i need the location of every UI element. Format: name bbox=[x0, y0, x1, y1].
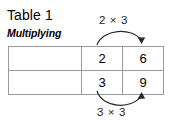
table-container: Servings 2 6 Cups 3 9 bbox=[8, 46, 160, 93]
multiplication-table: Servings 2 6 Cups 3 9 bbox=[8, 46, 164, 95]
cell-servings-2: 6 bbox=[123, 47, 164, 71]
figure-subtitle: Multiplying bbox=[7, 27, 61, 39]
figure-table-1: Table 1 Multiplying Servings 2 6 Cups 3 … bbox=[0, 0, 171, 127]
table-row: Servings 2 6 bbox=[9, 47, 164, 71]
cell-cups-2: 9 bbox=[123, 71, 164, 95]
row-header-servings: Servings bbox=[9, 47, 82, 71]
cell-cups-1: 3 bbox=[82, 71, 123, 95]
cell-servings-1: 2 bbox=[82, 47, 123, 71]
curved-arrow-right-icon bbox=[92, 26, 148, 48]
figure-title: Table 1 bbox=[7, 7, 53, 23]
annotation-top-label: 2 × 3 bbox=[99, 14, 128, 26]
table-row: Cups 3 9 bbox=[9, 71, 164, 95]
row-header-cups: Cups bbox=[9, 71, 82, 95]
annotation-bottom-label: 3 × 3 bbox=[97, 106, 126, 118]
